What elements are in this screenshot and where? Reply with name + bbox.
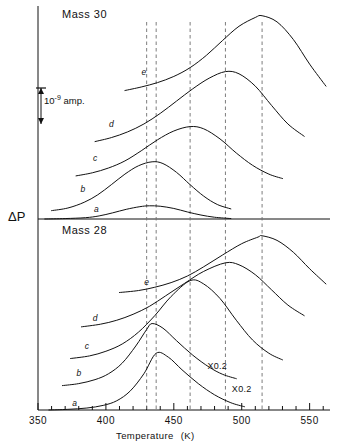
annotation-x02: X0.2 (232, 384, 252, 394)
curve-label-b: b (80, 184, 85, 194)
curve-label-d: d (93, 313, 98, 323)
curve-label-b: b (76, 368, 81, 378)
curve-mass28-d (81, 262, 304, 326)
curve-label-c: c (93, 153, 98, 163)
x-axis-tick-label: 400 (97, 415, 115, 426)
curve-mass30-d (95, 71, 304, 141)
curve-mass28-c (71, 280, 283, 360)
curve-label-d: d (109, 119, 114, 129)
curve-label-c: c (85, 341, 90, 351)
x-axis-label-unit: (K) (181, 430, 195, 441)
chart-canvas: 350400450500550abcdeabcdeX0.2X0.2 (0, 0, 340, 445)
scale-bar-mantissa: 10 (44, 95, 55, 106)
scale-bar-label: 10-9 amp. (44, 94, 85, 106)
scale-bar-exponent: -9 (55, 94, 61, 101)
x-axis-tick-label: 450 (165, 415, 183, 426)
x-axis-label: Temperature (K) (116, 430, 195, 441)
curve-mass30-a (45, 206, 231, 219)
curve-mass30-e (125, 15, 326, 90)
curve-mass30-b (52, 162, 231, 211)
y-axis-label: ΔP (8, 209, 25, 224)
panel-title-mass30: Mass 30 (62, 8, 107, 20)
annotation-x02: X0.2 (207, 361, 227, 371)
curve-label-a: a (72, 398, 77, 408)
curve-mass30-c (76, 126, 282, 178)
scale-bar-unit: amp. (63, 95, 84, 106)
x-axis-tick-label: 350 (29, 415, 47, 426)
thermal-desorption-figure: 350400450500550abcdeabcdeX0.2X0.2 Mass 3… (0, 0, 340, 445)
x-axis-tick-label: 500 (233, 415, 251, 426)
panel-title-mass28: Mass 28 (62, 224, 107, 236)
curve-label-e: e (144, 277, 149, 287)
curve-mass28-e (119, 236, 325, 293)
x-axis-tick-label: 550 (301, 415, 319, 426)
curve-mass28-b (62, 324, 236, 386)
curve-label-e: e (142, 67, 147, 77)
x-axis-label-text: Temperature (116, 430, 174, 441)
scale-bar-arrow-down (38, 118, 44, 124)
curve-label-a: a (94, 204, 99, 214)
